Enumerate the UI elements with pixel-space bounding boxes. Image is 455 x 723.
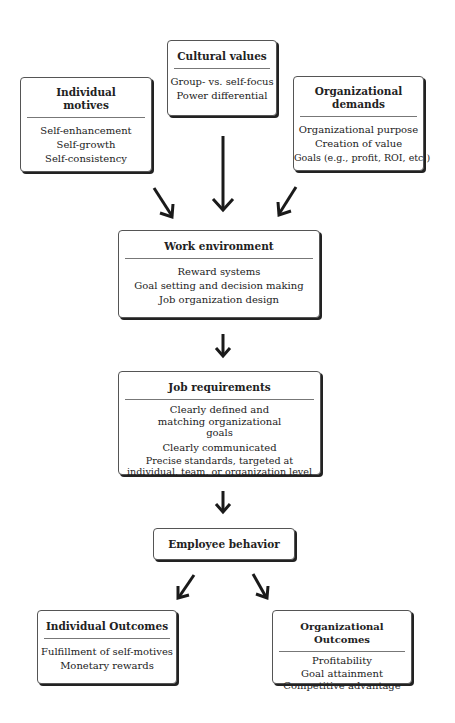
- individual-motives-title-line1: Individual: [21, 86, 151, 99]
- individual-outcomes-title: Individual Outcomes: [38, 620, 176, 633]
- work-environment-item: Job organization design: [119, 293, 319, 307]
- arrow-demands-to-work: [278, 187, 296, 215]
- arrow-job-to-behavior: [216, 491, 230, 512]
- cultural-values-title: Cultural values: [168, 50, 276, 63]
- work-environment-item: Goal setting and decision making: [119, 279, 319, 293]
- cultural-values-item: Group- vs. self-focus: [168, 75, 276, 89]
- divider: [44, 638, 170, 639]
- divider: [174, 68, 270, 69]
- arrow-behavior-to-organizational: [253, 574, 268, 598]
- arrow-behavior-to-individual: [178, 575, 194, 598]
- work-environment-item: Reward systems: [119, 265, 319, 279]
- organizational-demands-box: Organizational demands Organizational pu…: [293, 76, 424, 171]
- job-requirements-item: Precise standards, targeted at individua…: [119, 455, 320, 478]
- job-requirements-title: Job requirements: [119, 381, 320, 394]
- divider: [27, 117, 145, 118]
- job-requirements-box: Job requirements Clearly defined and mat…: [118, 371, 321, 475]
- individual-motives-title-line2: motives: [21, 99, 151, 112]
- organizational-outcomes-box: Organizational Outcomes Profitability Go…: [272, 610, 412, 684]
- individual-outcomes-item: Monetary rewards: [38, 659, 176, 673]
- individual-motives-item: Self-growth: [21, 138, 151, 152]
- divider: [300, 116, 417, 117]
- individual-motives-item: Self-enhancement: [21, 124, 151, 138]
- organizational-demands-item: Organizational purpose: [294, 123, 423, 137]
- individual-motives-item: Self-consistency: [21, 152, 151, 166]
- work-environment-box: Work environment Reward systems Goal set…: [118, 230, 320, 318]
- individual-outcomes-box: Individual Outcomes Fulfillment of self-…: [37, 610, 177, 684]
- work-environment-title: Work environment: [119, 240, 319, 253]
- organizational-demands-item: Creation of value: [294, 137, 423, 151]
- job-requirements-item: Clearly communicated: [119, 441, 320, 454]
- cultural-values-box: Cultural values Group- vs. self-focus Po…: [167, 40, 277, 116]
- job-requirements-item: Clearly defined and matching organizatio…: [119, 404, 320, 439]
- cultural-values-item: Power differential: [168, 89, 276, 103]
- divider: [279, 651, 405, 652]
- arrow-motives-to-work: [154, 188, 173, 217]
- organizational-demands-item: Goals (e.g., profit, ROI, etc.): [294, 151, 423, 165]
- employee-behavior-box: Employee behavior: [153, 528, 295, 560]
- individual-motives-box: Individual motives Self-enhancement Self…: [20, 77, 152, 172]
- arrow-cultural-to-work: [213, 136, 233, 210]
- organizational-outcomes-item: Competitive advantage: [273, 680, 411, 693]
- employee-behavior-title: Employee behavior: [154, 538, 294, 551]
- organizational-outcomes-item: Profitability: [273, 655, 411, 668]
- divider: [125, 399, 314, 400]
- organizational-outcomes-item: Goal attainment: [273, 668, 411, 681]
- divider: [125, 258, 313, 259]
- organizational-outcomes-title: Organizational Outcomes: [273, 620, 411, 646]
- arrow-work-to-job: [216, 334, 230, 356]
- organizational-demands-title-line1: Organizational: [294, 85, 423, 98]
- organizational-demands-title-line2: demands: [294, 98, 423, 111]
- individual-outcomes-item: Fulfillment of self-motives: [38, 645, 176, 659]
